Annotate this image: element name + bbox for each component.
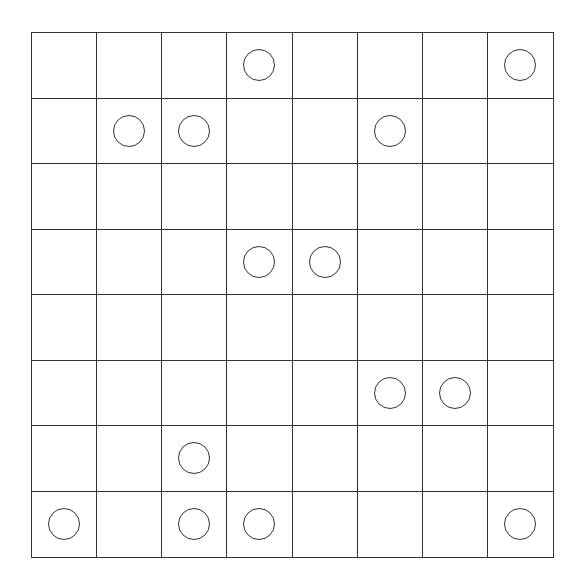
grid-cell[interactable] <box>488 164 553 230</box>
grid-cell[interactable] <box>32 230 97 296</box>
grid-cell[interactable] <box>162 164 227 230</box>
grid-cell[interactable] <box>162 295 227 361</box>
grid-cell[interactable] <box>293 230 358 296</box>
grid-cell[interactable] <box>293 426 358 492</box>
grid-cell[interactable] <box>293 361 358 427</box>
grid-cell[interactable] <box>227 230 292 296</box>
grid-cell[interactable] <box>423 426 488 492</box>
grid-cell[interactable] <box>97 426 162 492</box>
grid-cell[interactable] <box>97 99 162 165</box>
grid-cell[interactable] <box>423 99 488 165</box>
grid-cell[interactable] <box>293 99 358 165</box>
circle-icon <box>309 246 341 278</box>
circle-icon <box>178 115 210 147</box>
grid-cell[interactable] <box>227 426 292 492</box>
grid-cell[interactable] <box>358 99 423 165</box>
grid-cell[interactable] <box>488 295 553 361</box>
grid-cell[interactable] <box>488 426 553 492</box>
grid-cell[interactable] <box>97 164 162 230</box>
grid-cell[interactable] <box>293 492 358 558</box>
grid-cell[interactable] <box>227 164 292 230</box>
circle-icon <box>504 508 536 540</box>
grid-cell[interactable] <box>358 492 423 558</box>
circle-icon <box>113 115 145 147</box>
grid-cell[interactable] <box>358 164 423 230</box>
grid-cell[interactable] <box>97 33 162 99</box>
grid-cell[interactable] <box>293 33 358 99</box>
grid-cell[interactable] <box>97 492 162 558</box>
circle-icon <box>439 377 471 409</box>
grid-cell[interactable] <box>488 33 553 99</box>
grid-cell[interactable] <box>32 295 97 361</box>
grid-cell[interactable] <box>162 230 227 296</box>
grid-cell[interactable] <box>488 99 553 165</box>
grid-cell[interactable] <box>97 230 162 296</box>
grid-cell[interactable] <box>423 164 488 230</box>
circle-icon <box>243 508 275 540</box>
grid-cell[interactable] <box>162 426 227 492</box>
circle-icon <box>374 115 406 147</box>
grid-cell[interactable] <box>162 99 227 165</box>
circle-icon <box>48 508 80 540</box>
circle-icon <box>178 442 210 474</box>
circle-icon <box>243 246 275 278</box>
circle-icon <box>243 49 275 81</box>
grid-cell[interactable] <box>423 361 488 427</box>
grid-cell[interactable] <box>162 361 227 427</box>
grid-cell[interactable] <box>358 426 423 492</box>
grid-cell[interactable] <box>162 33 227 99</box>
grid-cell[interactable] <box>423 33 488 99</box>
grid-cell[interactable] <box>423 230 488 296</box>
grid-cell[interactable] <box>227 99 292 165</box>
circle-icon <box>504 49 536 81</box>
circle-icon <box>374 377 406 409</box>
grid-cell[interactable] <box>32 33 97 99</box>
grid-cell[interactable] <box>97 361 162 427</box>
grid-cell[interactable] <box>358 230 423 296</box>
grid-cell[interactable] <box>227 492 292 558</box>
grid-cell[interactable] <box>32 164 97 230</box>
grid-cell[interactable] <box>423 295 488 361</box>
grid-cell[interactable] <box>488 361 553 427</box>
grid-cell[interactable] <box>293 164 358 230</box>
grid-cell[interactable] <box>32 99 97 165</box>
grid-cell[interactable] <box>162 492 227 558</box>
grid-cell[interactable] <box>227 361 292 427</box>
grid-cell[interactable] <box>293 295 358 361</box>
grid-cell[interactable] <box>423 492 488 558</box>
grid-cell[interactable] <box>358 295 423 361</box>
grid-cell[interactable] <box>488 492 553 558</box>
grid-cell[interactable] <box>227 33 292 99</box>
grid-cell[interactable] <box>32 426 97 492</box>
circle-icon <box>178 508 210 540</box>
grid-cell[interactable] <box>32 361 97 427</box>
grid-cell[interactable] <box>97 295 162 361</box>
grid-board <box>31 32 554 558</box>
grid-cell[interactable] <box>32 492 97 558</box>
grid-cell[interactable] <box>358 33 423 99</box>
grid-cell[interactable] <box>227 295 292 361</box>
grid-cell[interactable] <box>358 361 423 427</box>
grid-cell[interactable] <box>488 230 553 296</box>
